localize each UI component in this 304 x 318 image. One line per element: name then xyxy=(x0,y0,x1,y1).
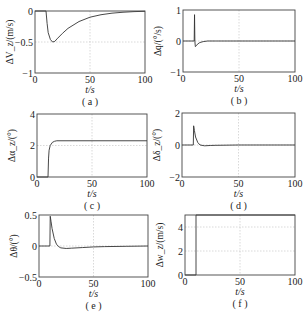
x-tick-label: 100 xyxy=(288,276,303,287)
y-tick-label: 2 xyxy=(175,108,180,119)
x-axis-label: t/s xyxy=(235,286,245,297)
panel-b: 050100−101t/sΔq/(°/s)( b ) xyxy=(153,5,303,108)
x-axis-label: t/s xyxy=(89,288,99,299)
y-axis-label: Δq/(°/s) xyxy=(153,26,164,56)
x-tick-label: 0 xyxy=(183,276,188,287)
x-tick-label: 100 xyxy=(140,178,155,189)
panel-caption: ( e ) xyxy=(85,300,101,312)
y-tick-label: 0 xyxy=(175,140,180,151)
y-tick-label: 0 xyxy=(32,241,37,252)
y-tick-label: 0 xyxy=(30,172,35,183)
panel-a: 050100−1−0.50t/sΔV_z/(m/s)( a ) xyxy=(5,6,153,109)
x-tick-label: 100 xyxy=(288,178,303,189)
y-tick-label: −1 xyxy=(170,67,181,78)
x-tick-label: 0 xyxy=(181,73,186,84)
figure: 050100−1−0.50t/sΔV_z/(m/s)( a )050100−10… xyxy=(0,0,304,318)
y-tick-label: 2 xyxy=(30,140,35,151)
y-tick-label: 4 xyxy=(30,109,35,120)
panel-caption: ( d ) xyxy=(230,200,247,212)
x-tick-label: 100 xyxy=(138,74,153,85)
x-axis-label: t/s xyxy=(234,83,244,94)
y-tick-label: −1 xyxy=(22,68,33,79)
x-axis-label: t/s xyxy=(87,188,97,199)
y-tick-label: 0 xyxy=(178,270,183,281)
y-tick-label: 4 xyxy=(178,222,183,233)
y-tick-label: 0 xyxy=(28,6,33,17)
panel-d: 050100−202t/sΔδ_z/(°)( d ) xyxy=(152,108,303,213)
panel-caption: ( f ) xyxy=(233,298,248,310)
y-axis-label: ΔV_z/(m/s) xyxy=(5,20,16,65)
y-axis-label: Δw_z/(m/s) xyxy=(155,223,166,268)
panel-caption: ( c ) xyxy=(84,200,100,212)
x-tick-label: 0 xyxy=(33,74,38,85)
panel-caption: ( b ) xyxy=(231,95,248,107)
y-tick-label: 2 xyxy=(178,246,183,257)
panel-c: 050100024t/sΔα_z/(°)( c ) xyxy=(7,109,155,213)
x-tick-label: 0 xyxy=(35,178,40,189)
y-tick-label: −2 xyxy=(169,172,180,183)
y-tick-label: −0.5 xyxy=(15,37,33,48)
y-axis-label: Δα_z/(°) xyxy=(7,129,18,162)
y-tick-label: 0.5 xyxy=(25,210,38,221)
y-axis-label: Δθ/(°) xyxy=(9,234,20,257)
y-axis-label: Δδ_z/(°) xyxy=(152,129,163,161)
panel-e: 050100−0.500.5t/sΔθ/(°)( e ) xyxy=(9,210,156,313)
x-axis-label: t/s xyxy=(234,188,244,199)
x-tick-label: 0 xyxy=(37,278,42,289)
y-tick-label: −0.5 xyxy=(19,272,37,283)
y-tick-label: 1 xyxy=(176,5,181,16)
figure-svg: 050100−1−0.50t/sΔV_z/(m/s)( a )050100−10… xyxy=(0,0,304,318)
y-tick-label: 0 xyxy=(176,36,181,47)
panel-caption: ( a ) xyxy=(82,96,98,108)
x-tick-label: 100 xyxy=(141,278,156,289)
x-axis-label: t/s xyxy=(85,84,95,95)
x-tick-label: 0 xyxy=(180,178,185,189)
x-tick-label: 100 xyxy=(288,73,303,84)
panel-f: 050100024t/sΔw_z/(m/s)( f ) xyxy=(155,215,303,310)
